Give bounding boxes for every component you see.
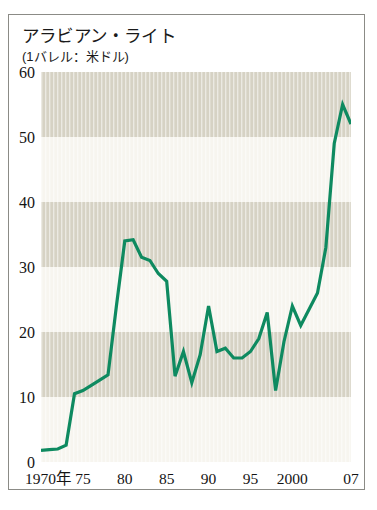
y-tick-label: 50: [19, 129, 35, 146]
x-tick-label: 2000: [277, 470, 308, 487]
y-tick-label: 30: [19, 259, 35, 276]
y-tick-label: 20: [19, 324, 35, 341]
x-tick-label: 07: [343, 470, 359, 487]
x-tick-label: 95: [243, 470, 259, 487]
x-tick-label: 1970年: [25, 470, 72, 487]
chart-plot: 0102030405060 1970年7580859095200007: [0, 0, 377, 510]
x-tick-label: 80: [117, 470, 133, 487]
y-axis: 0102030405060: [19, 64, 35, 471]
x-tick-label: 90: [201, 470, 217, 487]
background-bands: [41, 72, 351, 462]
y-tick-label: 0: [27, 454, 35, 471]
x-tick-label: 85: [159, 470, 175, 487]
x-axis: 1970年7580859095200007: [25, 470, 359, 487]
chart-figure: アラビアン・ライト (1バレル：米ドル) 0102030405060 1970年…: [0, 0, 377, 510]
y-tick-label: 60: [19, 64, 35, 81]
x-tick-label: 75: [75, 470, 91, 487]
y-tick-label: 40: [19, 194, 35, 211]
y-tick-label: 10: [19, 389, 35, 406]
